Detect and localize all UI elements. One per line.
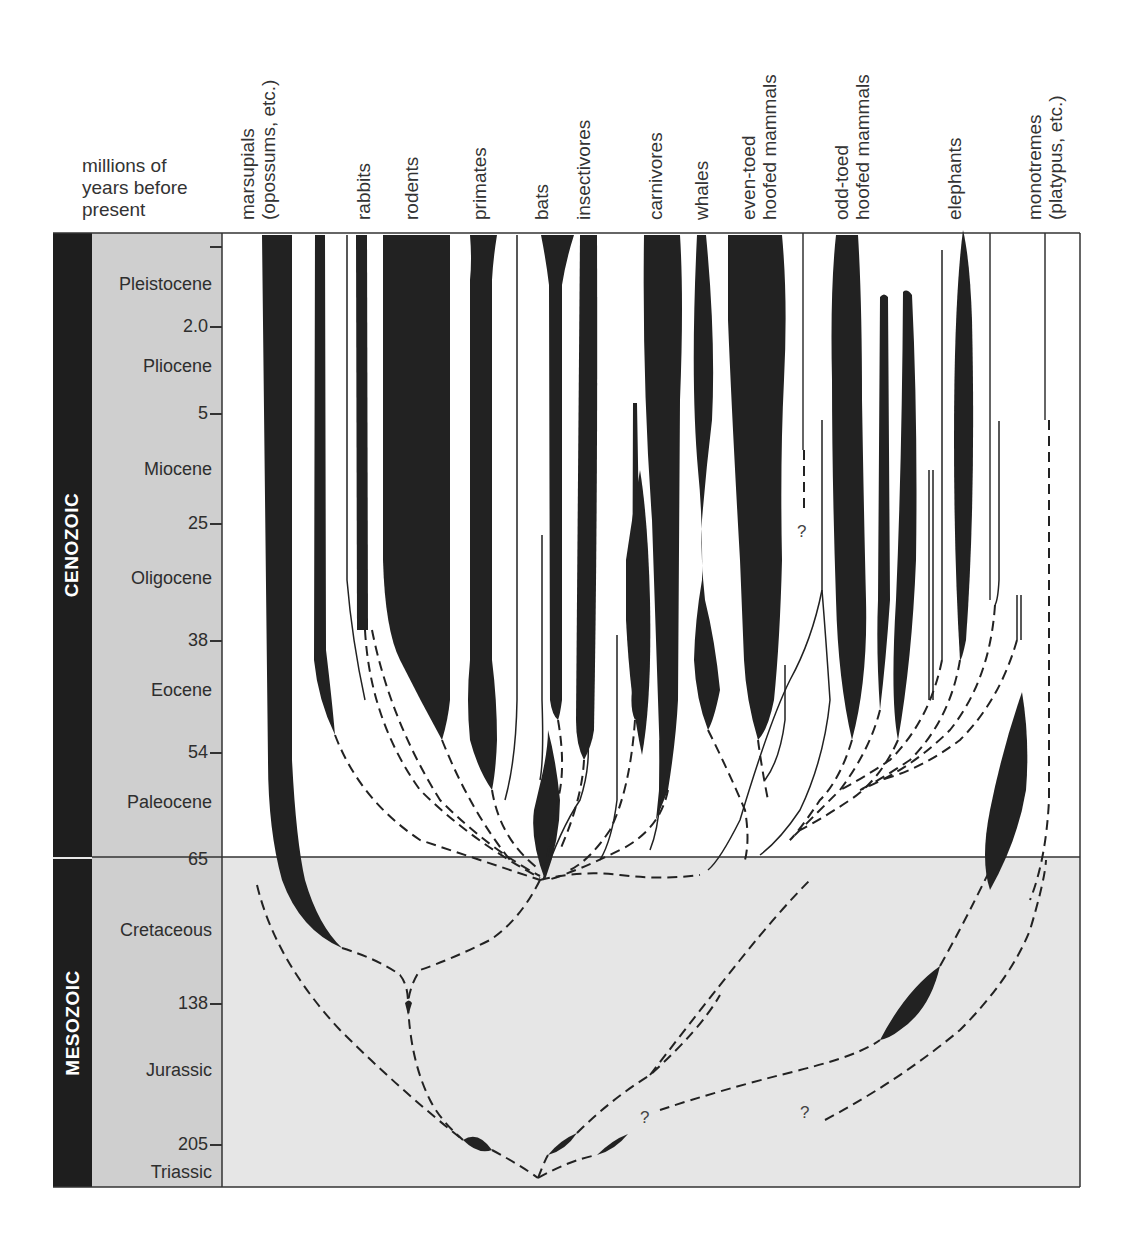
uncertain-marker-2: ? — [640, 1108, 649, 1128]
uncertain-marker-3: ? — [800, 1103, 809, 1123]
uncertain-marker-1: ? — [797, 522, 806, 542]
mesozoic-plot-area — [222, 857, 1080, 1187]
phylogenetic-tree — [0, 0, 1139, 1242]
